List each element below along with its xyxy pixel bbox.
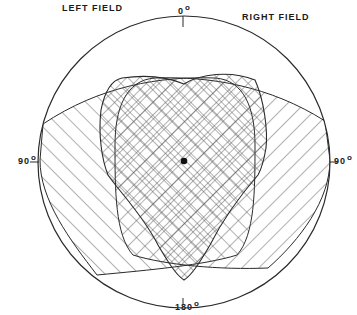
- fixation-point: [181, 158, 188, 165]
- visual-field-diagram: [0, 0, 357, 315]
